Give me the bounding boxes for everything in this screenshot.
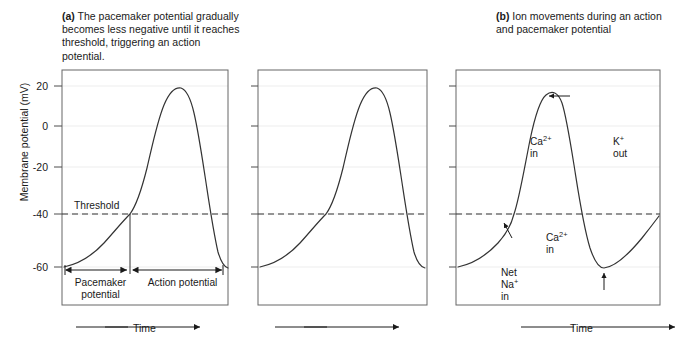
panel-a-y-ticks <box>54 86 62 267</box>
panel-a-curve <box>64 88 228 268</box>
panel-c-curve <box>458 92 659 268</box>
panel-c-plot-box <box>456 70 660 305</box>
panel-c-y-ticks <box>449 86 456 267</box>
panel-b-plot <box>251 70 427 327</box>
panel-b-y-ticks <box>251 86 258 267</box>
pointer-some-ca-open <box>504 223 512 238</box>
panel-c-gridlines <box>456 86 660 267</box>
figure-root: (a) The pacemaker potential gradually be… <box>0 0 693 344</box>
panel-b-plot-box <box>258 70 427 305</box>
panel-c-plot <box>449 70 675 327</box>
panel-b-curve <box>260 88 425 268</box>
panel-a-plot <box>54 70 228 327</box>
figure-vector-layer <box>0 0 693 344</box>
